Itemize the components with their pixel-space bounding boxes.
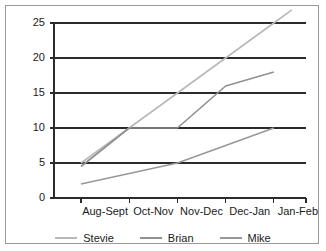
series-line-brian [81, 72, 274, 167]
legend-swatch-icon [140, 237, 162, 239]
legend-item: Stevie [55, 232, 114, 244]
y-axis-label: 25 [23, 17, 45, 28]
y-axis-label: 5 [23, 157, 45, 168]
legend-swatch-icon [55, 237, 77, 239]
chart-frame: 0510152025 Aug-SeptOct-NovNov-DecDec-Jan… [5, 5, 319, 244]
y-axis-label: 20 [23, 52, 45, 63]
legend-item: Mike [220, 232, 271, 244]
legend-item: Brian [140, 232, 194, 244]
y-axis-label: 15 [23, 87, 45, 98]
series-line-stevie [81, 10, 292, 163]
legend-swatch-icon [220, 237, 242, 239]
legend-label: Brian [168, 232, 194, 244]
y-axis-label: 0 [23, 192, 45, 203]
chart-legend: StevieBrianMike [6, 228, 320, 248]
chart-area: 0510152025 Aug-SeptOct-NovNov-DecDec-Jan… [6, 6, 318, 243]
series-line-mike [81, 128, 274, 184]
gridlines-group [54, 23, 306, 198]
x-axis-ticks-group [81, 198, 306, 203]
legend-label: Mike [248, 232, 271, 244]
x-axis-label: Jan-Feb [268, 206, 326, 217]
y-axis-label: 10 [23, 122, 45, 133]
data-series-group [81, 10, 292, 184]
legend-label: Stevie [83, 232, 114, 244]
